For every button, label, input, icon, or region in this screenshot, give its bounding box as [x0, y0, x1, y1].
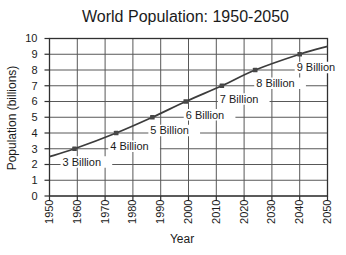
point-label: 4 Billion: [110, 140, 149, 152]
x-tick-label: 2040: [293, 200, 305, 224]
x-tick-label: 1950: [43, 200, 55, 224]
point-label: 7 Billion: [220, 93, 259, 105]
x-tick-label: 1960: [71, 200, 83, 224]
plot-area: 0123456789101950196019701980199020002010…: [0, 0, 346, 255]
point-label: 8 Billion: [256, 77, 295, 89]
point-label: 5 Billion: [150, 124, 189, 136]
data-point-marker: [297, 52, 302, 57]
point-label: 9 Billion: [297, 61, 336, 73]
y-tick-label: 6: [31, 95, 37, 107]
data-point-marker: [183, 99, 188, 104]
data-point-marker: [72, 146, 77, 151]
x-tick-label: 2030: [265, 200, 277, 224]
data-point-marker: [220, 83, 225, 88]
y-tick-label: 1: [31, 174, 37, 186]
point-label: 6 Billion: [186, 109, 225, 121]
y-tick-label: 8: [31, 64, 37, 76]
y-tick-label: 5: [31, 111, 37, 123]
y-tick-label: 0: [31, 190, 37, 202]
data-point-marker: [253, 68, 258, 73]
point-label: 3 Billion: [63, 156, 102, 168]
y-tick-label: 7: [31, 80, 37, 92]
y-axis-title: Population (billions): [5, 66, 19, 171]
data-point-marker: [150, 115, 155, 120]
y-tick-label: 3: [31, 143, 37, 155]
x-tick-label: 2020: [238, 200, 250, 224]
x-axis-title: Year: [170, 232, 194, 246]
y-tick-label: 4: [31, 127, 37, 139]
data-point-marker: [114, 131, 119, 136]
x-tick-label: 1990: [154, 200, 166, 224]
x-tick-label: 2010: [210, 200, 222, 224]
chart-title: World Population: 1950-2050: [82, 8, 289, 25]
x-tick-label: 1970: [99, 200, 111, 224]
x-tick-label: 1980: [126, 200, 138, 224]
plot-generated-layers: 0123456789101950196019701980199020002010…: [25, 32, 346, 224]
y-tick-label: 10: [25, 32, 37, 44]
x-tick-label: 2050: [321, 200, 333, 224]
y-tick-label: 9: [31, 48, 37, 60]
y-tick-label: 2: [31, 158, 37, 170]
x-tick-label: 2000: [182, 200, 194, 224]
world-population-chart: 0123456789101950196019701980199020002010…: [0, 0, 346, 255]
